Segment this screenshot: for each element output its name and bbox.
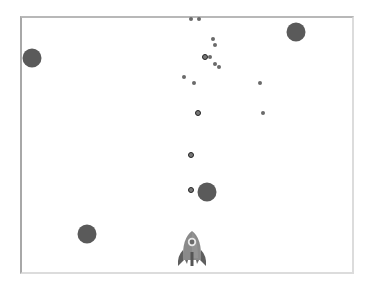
debris-particle: [213, 43, 217, 47]
debris-particle: [258, 81, 262, 85]
bullet: [195, 110, 201, 116]
asteroid: [23, 49, 42, 68]
game-stage[interactable]: [0, 0, 373, 293]
player-rocket[interactable]: [175, 230, 209, 272]
asteroid: [287, 23, 306, 42]
debris-particle: [261, 111, 265, 115]
asteroid: [78, 225, 97, 244]
debris-particle: [192, 81, 196, 85]
bullet: [188, 187, 194, 193]
rocket-icon: [175, 230, 209, 268]
debris-particle: [189, 17, 193, 21]
asteroid: [198, 183, 217, 202]
debris-particle: [211, 37, 215, 41]
debris-particle: [208, 55, 212, 59]
debris-particle: [197, 17, 201, 21]
debris-particle: [217, 65, 221, 69]
bullet: [188, 152, 194, 158]
debris-particle: [182, 75, 186, 79]
